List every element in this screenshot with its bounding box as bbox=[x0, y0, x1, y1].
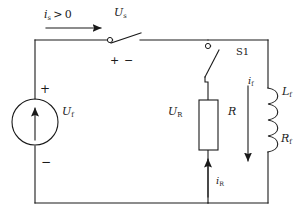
resistor-r-body bbox=[199, 100, 218, 150]
label-field-resistance: Rf bbox=[281, 133, 292, 144]
wire-middle-s1-to-resistor bbox=[205, 77, 208, 100]
switch-us-pivot[interactable] bbox=[107, 37, 112, 42]
circuit-diagram-canvas bbox=[0, 0, 305, 218]
switch-us-blade[interactable] bbox=[111, 33, 141, 43]
label-resistor-voltage: UR bbox=[168, 106, 182, 117]
label-source-current: is > 0 bbox=[44, 9, 72, 20]
label-resistor-current: iR bbox=[216, 176, 224, 186]
label-switch-voltage: Us bbox=[114, 7, 127, 18]
inductor-lf-coil bbox=[268, 88, 278, 152]
label-field-inductance: Lf bbox=[282, 86, 292, 97]
polarity-source-minus: − bbox=[41, 156, 51, 168]
switch-s1-pivot[interactable] bbox=[205, 43, 210, 48]
label-switch-s1: S1 bbox=[236, 47, 249, 57]
label-field-current: if bbox=[248, 76, 254, 86]
polarity-source-plus: + bbox=[40, 83, 50, 95]
polarity-switch-minus: − bbox=[124, 55, 133, 66]
label-resistor: R bbox=[228, 106, 236, 117]
polarity-switch-plus: + bbox=[110, 55, 119, 66]
label-source-voltage: Uf bbox=[62, 106, 74, 117]
switch-s1-blade[interactable] bbox=[205, 50, 219, 77]
